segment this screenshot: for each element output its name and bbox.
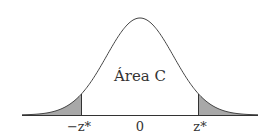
- tick-label-neg-z-star: −z*: [67, 119, 92, 134]
- tick-label-zero: 0: [136, 119, 144, 134]
- normal-curve-diagram: Área C −z* 0 z*: [0, 0, 274, 138]
- area-c-label: Área C: [113, 67, 166, 85]
- tick-label-z-star: z*: [193, 119, 207, 134]
